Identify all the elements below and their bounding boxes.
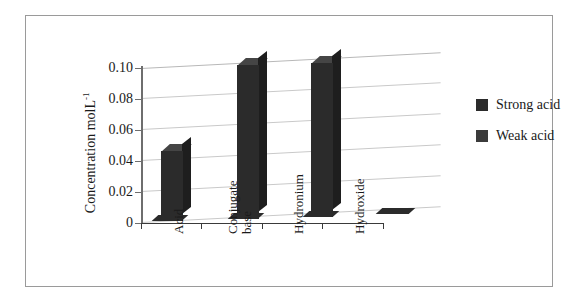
x-category-label-hydroxide: Hydroxide: [353, 114, 367, 234]
y-tick-label-0.02: 0.02: [109, 185, 134, 199]
x-tick-mark-1: [201, 223, 202, 229]
chart-legend: Strong acid Weak acid: [476, 98, 576, 160]
y-axis-title-text: Concentration molL: [83, 100, 98, 213]
y-tick-label-0.06: 0.06: [109, 123, 134, 137]
y-tick-label-0: 0: [126, 216, 133, 230]
y-tick-mark-0.10: [135, 68, 142, 69]
legend-swatch-icon-strong-acid: [476, 99, 488, 111]
legend-swatch-icon-weak-acid: [476, 130, 488, 142]
x-category-label-conjugate-base: Conjugate base: [226, 114, 253, 234]
bar-strong-acid-hydronium: [311, 63, 333, 217]
x-tick-mark-0: [141, 223, 142, 229]
x-tick-mark-3: [322, 223, 323, 229]
x-tick-mark-4: [383, 223, 384, 229]
bar-side-face: [332, 49, 341, 210]
x-tick-mark-2: [262, 223, 263, 229]
y-tick-mark-0.08: [135, 99, 142, 100]
x-category-label-hydronium: Hydronium: [292, 114, 306, 234]
legend-item-strong-acid[interactable]: Strong acid: [476, 98, 576, 112]
bar-side-face: [258, 51, 267, 212]
legend-item-weak-acid[interactable]: Weak acid: [476, 129, 576, 143]
y-tick-mark-0.04: [135, 161, 142, 162]
y-tick-label-0.04: 0.04: [109, 154, 134, 168]
y-tick-label-0.08: 0.08: [109, 92, 134, 106]
gridline-0.06: [141, 113, 441, 130]
gridline-0.08: [141, 82, 441, 99]
figure-frame: 0.10 0.08 0.06 0.04 0.02 0 Concentration…: [25, 15, 553, 287]
y-axis-line: [141, 66, 143, 224]
chart-figure: 0.10 0.08 0.06 0.04 0.02 0 Concentration…: [0, 0, 577, 307]
legend-label-weak-acid: Weak acid: [496, 129, 554, 143]
x-category-label-acid: Acid: [172, 114, 186, 234]
bar-front-face: [311, 63, 333, 217]
y-tick-mark-0.02: [135, 192, 142, 193]
y-tick-label-0.10: 0.10: [109, 61, 134, 75]
legend-label-strong-acid: Strong acid: [496, 98, 560, 112]
y-axis-title: Concentration molL-1: [81, 73, 99, 233]
y-axis-title-exponent: -1: [81, 93, 91, 101]
bar-weak-acid-hydroxide: [376, 208, 416, 214]
y-tick-mark-0.06: [135, 130, 142, 131]
gridline-0.10: [141, 52, 441, 69]
